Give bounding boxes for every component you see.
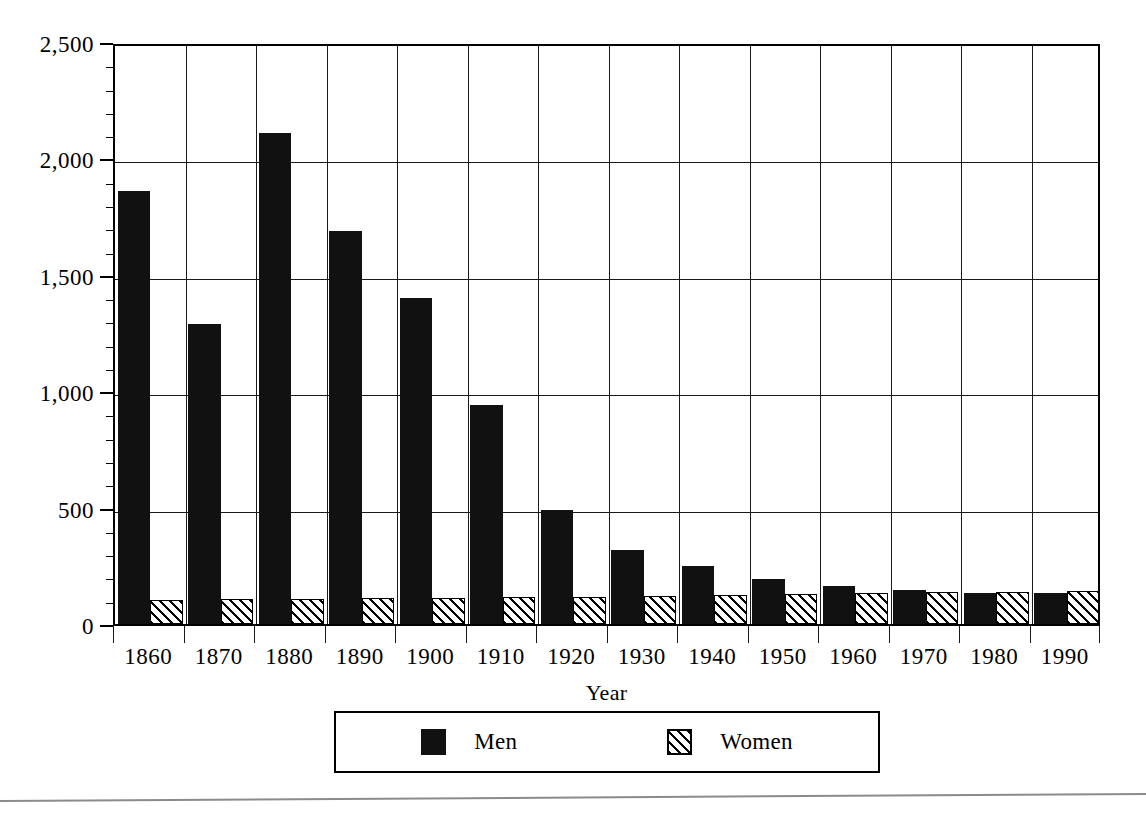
x-axis-tick-label: 1950 bbox=[759, 645, 807, 668]
y-axis-tick-minor bbox=[106, 137, 113, 138]
y-axis-tick-major bbox=[100, 625, 113, 627]
y-axis-tick-minor bbox=[106, 91, 113, 92]
legend-swatch-women-icon bbox=[667, 729, 692, 755]
gridline-vertical bbox=[256, 46, 257, 624]
x-axis-tick-label: 1890 bbox=[336, 645, 384, 668]
bar-women-1960 bbox=[855, 593, 887, 624]
bar-men-1870 bbox=[188, 324, 220, 624]
gridline-vertical bbox=[186, 46, 187, 624]
bar-women-1910 bbox=[503, 597, 535, 624]
x-axis-tick bbox=[748, 626, 749, 643]
x-axis-tick bbox=[466, 626, 467, 643]
x-axis-ticks bbox=[113, 626, 1100, 644]
gridline-vertical bbox=[538, 46, 539, 624]
x-axis-tick-label: 1970 bbox=[900, 645, 948, 668]
bar-chart-figure: 05001,0001,5002,0002,500 186018701880189… bbox=[0, 0, 1146, 818]
bar-men-1990 bbox=[1034, 593, 1066, 624]
y-axis-tick-minor bbox=[106, 579, 113, 580]
bar-women-1860 bbox=[150, 600, 182, 624]
x-axis-tick bbox=[184, 626, 185, 643]
x-axis-title: Year bbox=[113, 680, 1100, 706]
bar-women-1880 bbox=[291, 599, 323, 624]
legend-swatch-men-icon bbox=[421, 729, 446, 755]
y-axis: 05001,0001,5002,0002,500 bbox=[0, 0, 113, 670]
x-axis-tick bbox=[325, 626, 326, 643]
x-axis-tick bbox=[113, 626, 114, 643]
bar-men-1980 bbox=[964, 593, 996, 624]
bar-men-1920 bbox=[541, 510, 573, 624]
x-axis-tick bbox=[677, 626, 678, 643]
x-axis-tick bbox=[607, 626, 608, 643]
x-axis-tick bbox=[1030, 626, 1031, 643]
x-axis-tick-label: 1900 bbox=[406, 645, 454, 668]
x-axis-tick-label: 1860 bbox=[124, 645, 172, 668]
y-axis-tick-minor bbox=[106, 67, 113, 68]
x-axis-tick-label: 1910 bbox=[477, 645, 525, 668]
x-axis-tick-label: 1940 bbox=[688, 645, 736, 668]
bar-men-1900 bbox=[400, 298, 432, 624]
legend-label-women: Women bbox=[720, 729, 792, 755]
y-axis-tick-major bbox=[100, 43, 113, 45]
x-axis-tick bbox=[1099, 626, 1100, 643]
legend-label-men: Men bbox=[474, 729, 517, 755]
bar-women-1890 bbox=[362, 598, 394, 624]
y-axis-tick-label: 1,000 bbox=[40, 382, 94, 405]
bar-men-1970 bbox=[893, 590, 925, 624]
x-axis-tick bbox=[395, 626, 396, 643]
y-axis-tick-minor bbox=[106, 230, 113, 231]
gridline-vertical bbox=[1032, 46, 1033, 624]
gridline-vertical bbox=[891, 46, 892, 624]
gridline-vertical bbox=[820, 46, 821, 624]
bar-men-1950 bbox=[752, 579, 784, 624]
y-axis-tick-minor bbox=[106, 440, 113, 441]
y-axis-tick-minor bbox=[106, 300, 113, 301]
x-axis-tick bbox=[889, 626, 890, 643]
y-axis-tick-minor bbox=[106, 207, 113, 208]
y-axis-tick-major bbox=[100, 159, 113, 161]
bar-men-1880 bbox=[259, 133, 291, 624]
clipped-page-caption bbox=[0, 806, 1146, 818]
y-axis-tick-minor bbox=[106, 603, 113, 604]
x-axis-tick-label: 1990 bbox=[1041, 645, 1089, 668]
bar-women-1970 bbox=[926, 592, 958, 624]
bar-women-1940 bbox=[714, 595, 746, 624]
y-axis-tick-label: 2,000 bbox=[40, 149, 94, 172]
gridline-vertical bbox=[750, 46, 751, 624]
x-axis-tick-label: 1920 bbox=[547, 645, 595, 668]
y-axis-tick-major bbox=[100, 509, 113, 511]
y-axis-tick-minor bbox=[106, 533, 113, 534]
bar-women-1930 bbox=[644, 596, 676, 624]
gridline-vertical bbox=[397, 46, 398, 624]
y-axis-tick-minor bbox=[106, 114, 113, 115]
x-axis-tick-label: 1930 bbox=[618, 645, 666, 668]
bar-women-1990 bbox=[1067, 591, 1099, 624]
y-axis-tick-minor bbox=[106, 370, 113, 371]
bar-men-1860 bbox=[118, 191, 150, 624]
x-axis-tick bbox=[254, 626, 255, 643]
legend-entry-women: Women bbox=[667, 729, 792, 755]
gridline-vertical bbox=[468, 46, 469, 624]
y-axis-tick-minor bbox=[106, 556, 113, 557]
bar-men-1960 bbox=[823, 586, 855, 624]
gridline-vertical bbox=[609, 46, 610, 624]
bar-men-1890 bbox=[329, 231, 361, 624]
x-axis-tick-label: 1870 bbox=[195, 645, 243, 668]
y-axis-tick-minor bbox=[106, 416, 113, 417]
gridline-vertical bbox=[961, 46, 962, 624]
bar-men-1940 bbox=[682, 566, 714, 624]
y-axis-tick-major bbox=[100, 392, 113, 394]
y-axis-tick-major bbox=[100, 276, 113, 278]
gridline-vertical bbox=[327, 46, 328, 624]
y-axis-tick-minor bbox=[106, 486, 113, 487]
y-axis-tick-minor bbox=[106, 463, 113, 464]
x-axis-labels: 1860187018801890190019101920193019401950… bbox=[113, 645, 1100, 679]
x-axis-tick bbox=[536, 626, 537, 643]
page-divider-rule bbox=[0, 793, 1146, 802]
x-axis-tick-label: 1960 bbox=[829, 645, 877, 668]
bar-women-1920 bbox=[573, 597, 605, 624]
x-axis-tick bbox=[818, 626, 819, 643]
y-axis-tick-minor bbox=[106, 323, 113, 324]
bar-women-1870 bbox=[221, 599, 253, 624]
chart-legend: Men Women bbox=[334, 711, 880, 773]
x-axis-tick bbox=[959, 626, 960, 643]
